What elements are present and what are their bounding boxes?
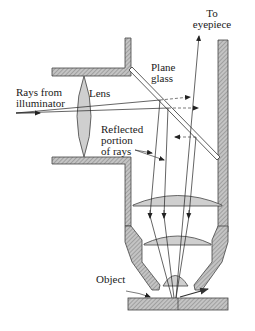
label-rays-from-illuminator: Rays from illuminator	[16, 87, 65, 109]
label-plane-glass: Plane glass	[151, 62, 175, 84]
objective-lens-upper	[133, 196, 222, 207]
microscope-diagram: To eyepiece Plane glass Rays from illumi…	[0, 0, 255, 331]
specimen	[128, 298, 228, 310]
scattered-ray	[180, 289, 208, 297]
right-tube-wall	[218, 40, 228, 232]
label-rays-line2: illuminator	[16, 98, 65, 109]
left-tube-wall	[52, 157, 131, 226]
label-to-eyepiece: To eyepiece	[182, 8, 242, 30]
label-lens: Lens	[89, 88, 110, 99]
objective-lens-front	[163, 276, 188, 287]
objective-lens-middle	[144, 236, 211, 245]
label-reflected-line3: of rays	[101, 146, 143, 157]
label-to-eyepiece-line2: eyepiece	[182, 19, 242, 30]
label-plane-glass-line2: glass	[151, 73, 175, 84]
upper-housing	[52, 38, 131, 76]
eyepiece-ray	[176, 36, 199, 298]
label-object: Object	[96, 274, 125, 285]
label-reflected-portion: Reflected portion of rays	[101, 124, 143, 157]
microscope-illustration	[0, 0, 255, 331]
